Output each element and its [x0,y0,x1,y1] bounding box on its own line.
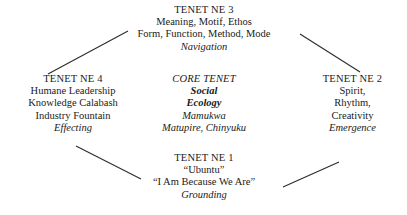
tenet-ne-3-node: TENET NE 3 Meaning, Motif, Ethos Form, F… [103,4,305,53]
tenet-ne-1-line-1: “Ubuntu” [126,164,282,176]
tenet-ne-4-heading: TENET NE 4 [2,73,144,85]
core-tenet-name-line-1: Social [143,85,265,97]
tenet-ne-3-keyword: Navigation [103,41,305,53]
core-tenet-name-line-2: Ecology [143,97,265,109]
core-tenet-label: CORE TENET [143,73,265,85]
tenet-ne-4-node: TENET NE 4 Humane Leadership Knowledge C… [2,73,144,134]
edge-top-to-right [300,34,360,72]
tenet-ne-1-heading: TENET NE 1 [126,152,282,164]
tenet-ne-2-line-3: Creativity [300,110,405,122]
tenet-ne-4-line-3: Industry Fountain [2,110,144,122]
tenet-ne-4-keyword: Effecting [2,122,144,134]
tenet-ne-2-node: TENET NE 2 Spirit, Rhythm, Creativity Em… [300,73,405,134]
tenet-ne-1-node: TENET NE 1 “Ubuntu” “I Am Because We Are… [126,152,282,201]
edge-bottom-to-right [283,162,339,187]
core-tenet-node: CORE TENET Social Ecology Mamukwa Matupi… [143,73,265,134]
tenet-ne-4-line-1: Humane Leadership [2,85,144,97]
tenet-ne-2-line-2: Rhythm, [300,97,405,109]
tenet-ne-4-line-2: Knowledge Calabash [2,97,144,109]
diagram-canvas: TENET NE 3 Meaning, Motif, Ethos Form, F… [0,0,407,215]
core-tenet-author-2: Matupire, Chinyuku [143,122,265,134]
tenet-ne-3-line-2: Form, Function, Method, Mode [103,28,305,40]
tenet-ne-1-line-2: “I Am Because We Are” [126,176,282,188]
tenet-ne-1-keyword: Grounding [126,189,282,201]
tenet-ne-2-line-1: Spirit, [300,85,405,97]
tenet-ne-3-line-1: Meaning, Motif, Ethos [103,16,305,28]
tenet-ne-2-heading: TENET NE 2 [300,73,405,85]
tenet-ne-2-keyword: Emergence [300,122,405,134]
core-tenet-author-1: Mamukwa [143,110,265,122]
tenet-ne-3-heading: TENET NE 3 [103,4,305,16]
